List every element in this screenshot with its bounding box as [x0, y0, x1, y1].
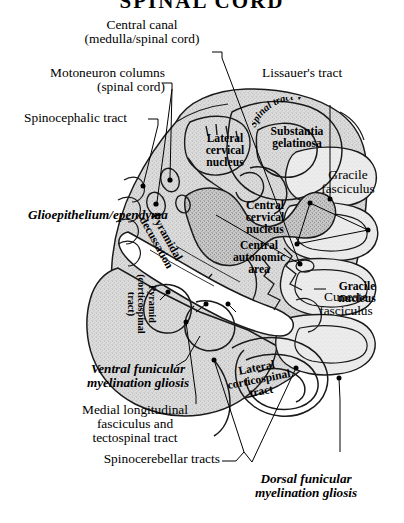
label-ventral-funicular-gliosis: Ventral funicular myelination gliosis — [58, 362, 218, 389]
figure-canvas: SPINAL CORD — [0, 0, 404, 523]
svg-text:Spinal tract V: Spinal tract V — [252, 97, 304, 129]
label-gracile-fasciculus: Gracile fasciculus — [300, 168, 396, 196]
label-pyramid-corticospinal-tract: Pyramid (corticospinal tract) — [125, 267, 157, 341]
label-lateral-cervical-nucleus: Lateral cervical nucleus — [190, 133, 260, 169]
label-spinocephalic-tract: Spinocephalic tract — [24, 111, 154, 125]
label-central-autonomic-area: Central autonomic area — [222, 240, 296, 276]
label-central-canal: Central canal (medulla/spinal cord) — [52, 18, 232, 46]
label-dorsal-funicular-gliosis: Dorsal funicular myelination gliosis — [218, 472, 394, 499]
label-spinocerebellar-tracts: Spinocerebellar tracts — [50, 452, 220, 466]
label-motoneuron-columns: Motoneuron columns (spinal cord) — [10, 66, 165, 94]
label-cuneate-fasciculus: Cuneate fasciculus — [296, 290, 396, 318]
label-central-cervical-nucleus: Central cervical nucleus — [228, 200, 302, 236]
label-spinal-tract-v-wrap: Spinal tract V — [252, 97, 332, 133]
label-medial-longitudinal: Medial longitudinal fasciculus and tecto… — [60, 403, 210, 445]
label-lissauers-tract: Lissauer's tract — [262, 66, 392, 80]
